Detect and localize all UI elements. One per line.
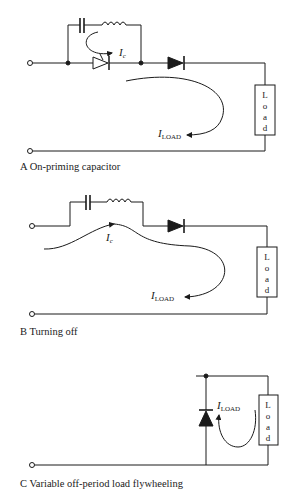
iload-label: ILOAD (216, 399, 240, 413)
capacitor-icon (80, 18, 84, 33)
diode-icon (168, 219, 184, 233)
input-terminal-bottom (28, 149, 33, 154)
svg-text:L: L (264, 252, 270, 262)
svg-text:L: L (265, 400, 271, 410)
ic-current-arrow (44, 224, 114, 249)
caption-c: C Variable off-period load flywheeling (20, 478, 183, 489)
iload-current-arrow (114, 224, 225, 297)
capacitor-icon (86, 195, 90, 210)
ic-label: Ic (118, 46, 127, 60)
iload-label: ILOAD (150, 289, 174, 303)
flywheel-diode-icon (199, 410, 213, 426)
svg-text:d: d (263, 123, 268, 133)
panel-a-circuit (28, 18, 276, 154)
caption-b: B Turning off (20, 326, 78, 337)
input-terminal-bottom (30, 312, 35, 317)
load-label: L o a d (265, 400, 271, 443)
ic-label: Ic (105, 231, 114, 245)
junction-node (139, 61, 143, 65)
svg-text:o: o (266, 411, 271, 421)
svg-text:d: d (265, 285, 270, 295)
panel-b-labels: Ic ILOAD L o a d (105, 231, 270, 303)
iload-current-arrow (219, 410, 256, 447)
svg-text:a: a (265, 274, 269, 284)
input-terminal-top (28, 61, 33, 66)
caption-a: A On-priming capacitor (20, 161, 120, 172)
input-terminal-top (30, 224, 35, 229)
load-label: L o a d (262, 90, 268, 133)
diode-icon (168, 56, 184, 70)
panel-c-circuit (30, 374, 279, 468)
svg-text:d: d (266, 433, 271, 443)
circuit-diagrams: Ic ILOAD L o a d Ic ILOAD (0, 0, 304, 499)
svg-text:a: a (263, 112, 267, 122)
input-terminal-bottom (30, 463, 35, 468)
thyristor-icon (93, 54, 109, 70)
iload-current-arrow (126, 77, 223, 135)
inductor-icon (102, 22, 126, 25)
svg-text:a: a (266, 422, 270, 432)
load-label: L o a d (264, 252, 270, 295)
svg-text:L: L (262, 90, 268, 100)
inductor-icon (107, 199, 131, 202)
iload-label: ILOAD (157, 127, 181, 141)
svg-text:o: o (263, 101, 268, 111)
ic-current-arrow (86, 32, 112, 54)
panel-a-labels: Ic ILOAD L o a d (118, 46, 268, 141)
svg-text:o: o (265, 263, 270, 273)
